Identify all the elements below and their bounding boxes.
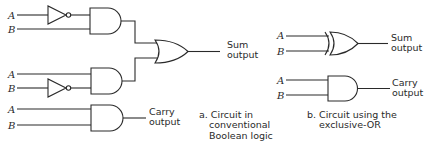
input-label-a-row2: A [7,69,15,80]
and-gate-1-icon [90,8,121,34]
caption-a-line2: conventional [209,119,270,130]
and-gate-3-icon [91,105,123,131]
or-gate-icon [155,40,188,63]
input-label-b-row2: B [7,83,15,94]
input-label-b-row3: B [7,120,15,131]
not-gate-2-icon [48,79,71,97]
not-gate-1-icon [48,6,71,24]
carry-output-label-b-line2: output [392,87,424,98]
sum-output-label-b-line2: output [391,42,423,53]
and-gate-b-icon [328,76,357,101]
input-label-b-and: B [276,90,284,101]
half-adder-diagram: A B A B Sum output A B [0,0,433,152]
input-label-a-xor: A [276,30,284,41]
xor-gate-icon [325,32,358,55]
caption-a-line3: Boolean logic [209,130,273,141]
carry-output-label-a-line2: output [149,116,181,127]
input-label-b-row1: B [7,24,15,35]
sum-output-label-a-line2: output [227,49,259,60]
input-label-a-row1: A [7,10,15,21]
wire-and2-to-or [122,58,160,81]
caption-b-line2: exclusive-OR [319,119,381,130]
input-label-a-row3: A [7,104,15,115]
and-gate-2-icon [91,68,122,94]
input-label-b-xor: B [276,46,284,57]
input-label-a-and: A [276,75,284,86]
panel-a-conventional-circuit: A B A B Sum output A B [7,6,273,141]
panel-b-xor-circuit: A B Sum output A B Carry output b. Circu… [276,30,424,130]
